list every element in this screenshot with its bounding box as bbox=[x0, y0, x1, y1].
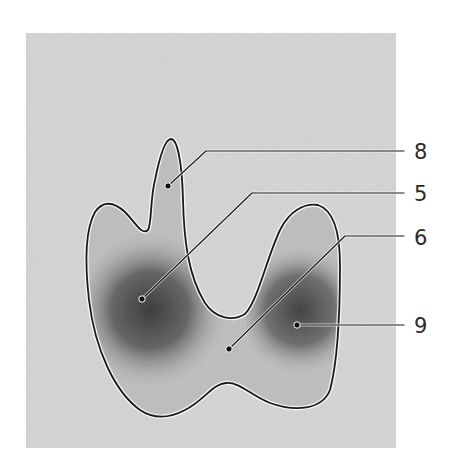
thyroid-diagram bbox=[0, 0, 451, 464]
dot-5 bbox=[139, 296, 145, 302]
dot-6 bbox=[226, 346, 232, 352]
dot-9 bbox=[294, 322, 300, 328]
dot-8 bbox=[165, 183, 171, 189]
label-6: 6 bbox=[414, 228, 427, 249]
label-5: 5 bbox=[414, 184, 427, 205]
label-8: 8 bbox=[414, 142, 427, 163]
label-9: 9 bbox=[414, 316, 427, 337]
